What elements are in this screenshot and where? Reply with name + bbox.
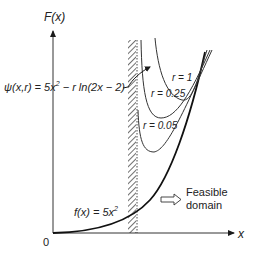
curve-label-r-0-05: r = 0.05 — [143, 120, 178, 131]
constraint-barrier — [128, 40, 136, 233]
feasible-domain-label-line2: domain — [186, 199, 222, 211]
curve-label-r-1: r = 1 — [172, 72, 192, 83]
objective-function-label: f(x) = 5x2 — [74, 205, 118, 218]
psi-function-label: ψ(x,r) = 5x2 − r ln(2x − 2) — [4, 80, 125, 93]
curve-label-r-0-25: r = 0.25 — [151, 88, 186, 99]
x-axis-label: x — [237, 227, 245, 241]
feasible-arrow-icon — [161, 194, 181, 205]
y-axis-label: F(x) — [44, 10, 65, 24]
barrier-curve-r-0-05 — [138, 50, 212, 152]
feasible-domain-label-line1: Feasible — [186, 186, 228, 198]
penalty-barrier-diagram: F(x) x 0 ψ(x,r) = 5x2 − r ln(2x − 2) f(x… — [0, 0, 262, 261]
origin-label: 0 — [43, 236, 49, 248]
